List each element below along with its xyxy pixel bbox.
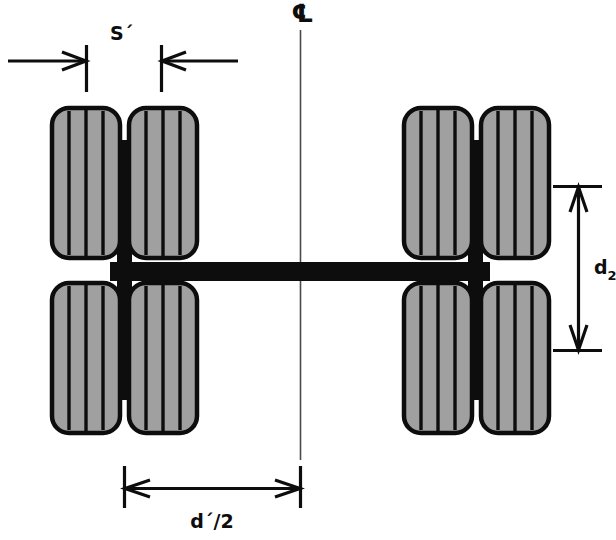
dimension-label-d2-subscript: 2 — [608, 268, 616, 283]
dimension-label-d2-base: d — [594, 256, 608, 278]
tire-left-rear-outer — [52, 283, 120, 433]
tire-left-front-inner — [129, 108, 197, 258]
diagram-canvas: ℄ — [0, 0, 616, 540]
dimension-label-s: S´ — [110, 22, 133, 44]
tire-right-rear-inner — [404, 283, 472, 433]
dimension-label-half-spacing: d´/2 — [190, 510, 233, 532]
tire-left-rear-inner — [129, 283, 197, 433]
tire-right-rear-outer — [481, 283, 549, 433]
main-axle-beam — [110, 262, 490, 281]
tire-left-front-outer — [52, 108, 120, 258]
tire-right-front-inner — [404, 108, 472, 258]
wheel-assembly-diagram: ℄ — [0, 0, 616, 540]
tire-right-front-outer — [481, 108, 549, 258]
